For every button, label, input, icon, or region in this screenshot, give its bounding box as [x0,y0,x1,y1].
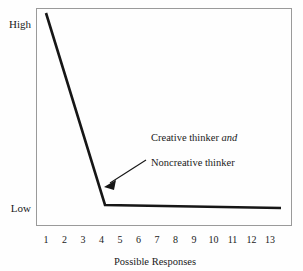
chart-canvas: High Low Creative thinker and Noncreativ… [0,0,303,271]
x-tick-label: 13 [265,234,275,245]
plot-frame [37,9,292,226]
y-axis-label-low: Low [11,202,31,214]
x-tick-label: 10 [209,234,219,245]
x-tick-label: 1 [44,234,49,245]
x-tick-label: 2 [62,234,67,245]
y-axis-label-high: High [9,18,32,30]
x-tick-label: 12 [247,234,257,245]
x-tick-label: 9 [192,234,197,245]
x-axis-title: Possible Responses [114,256,196,267]
x-tick-label: 7 [155,234,160,245]
x-tick-label: 8 [173,234,178,245]
x-tick-label: 11 [228,234,238,245]
annotation-line-1-italic: and [222,132,239,143]
x-tick-label: 3 [81,234,86,245]
x-tick-label: 6 [136,234,141,245]
x-tick-label: 5 [118,234,123,245]
chart-figure: High Low Creative thinker and Noncreativ… [0,0,303,271]
annotation-line-1: Creative thinker and [151,132,238,143]
x-tick-label: 4 [99,234,104,245]
annotation-line-1-prefix: Creative thinker [151,132,222,143]
annotation-line-2: Noncreative thinker [151,157,235,168]
